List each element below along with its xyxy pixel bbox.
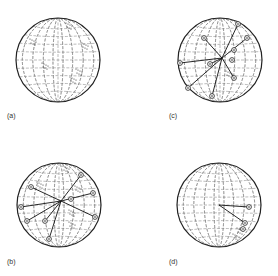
circle-marker bbox=[178, 61, 183, 66]
circle-marker bbox=[208, 62, 213, 67]
circle-marker bbox=[247, 205, 252, 210]
circle-marker bbox=[236, 22, 241, 27]
axis-line bbox=[219, 205, 245, 223]
panel-label-b: (b) bbox=[7, 258, 16, 265]
axis-line bbox=[219, 205, 249, 207]
sphere-panel-a bbox=[16, 18, 100, 102]
axis-line bbox=[180, 58, 222, 63]
circle-marker bbox=[25, 219, 30, 224]
circle-marker bbox=[43, 219, 48, 224]
circle-marker bbox=[243, 221, 248, 226]
axis-line bbox=[61, 201, 95, 217]
circle-marker bbox=[232, 76, 237, 81]
axis-line bbox=[21, 201, 61, 207]
panel-label-d: (d) bbox=[169, 258, 178, 265]
panel-label-c: (c) bbox=[169, 112, 177, 119]
figure-canvas bbox=[0, 0, 278, 276]
axis-line bbox=[222, 24, 238, 58]
circle-marker bbox=[245, 36, 250, 41]
point-cluster bbox=[36, 181, 43, 188]
axis-line bbox=[188, 58, 222, 88]
circle-marker bbox=[230, 58, 235, 63]
axis-line bbox=[45, 201, 61, 221]
axis-line bbox=[212, 58, 222, 96]
sphere-panel-d bbox=[177, 163, 261, 247]
circle-marker bbox=[91, 191, 96, 196]
circle-marker bbox=[47, 237, 52, 242]
point-cluster bbox=[69, 76, 76, 83]
circle-marker bbox=[186, 86, 191, 91]
point-cluster bbox=[41, 62, 48, 69]
point-cluster bbox=[62, 165, 69, 172]
sphere-panel-b bbox=[17, 163, 101, 247]
circle-marker bbox=[93, 215, 98, 220]
circle-marker bbox=[232, 48, 237, 53]
panel-label-a: (a) bbox=[7, 112, 16, 119]
circle-marker bbox=[19, 205, 24, 210]
circle-marker bbox=[69, 197, 74, 202]
axis-line bbox=[31, 187, 61, 201]
sphere-panel-c bbox=[178, 18, 262, 102]
axis-line bbox=[204, 38, 222, 58]
point-cluster bbox=[29, 38, 36, 45]
circle-marker bbox=[29, 185, 34, 190]
circle-marker bbox=[241, 227, 246, 232]
circle-marker bbox=[210, 94, 215, 99]
circle-marker bbox=[202, 36, 207, 41]
circle-marker bbox=[79, 173, 84, 178]
